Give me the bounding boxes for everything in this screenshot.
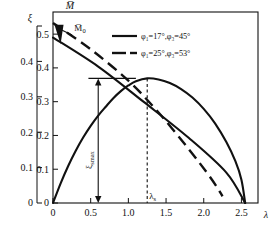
x-tick-label: 2.5 [235,207,248,218]
chart-legend: φ₁=17°,φ₃=45°φ₁=25°,φ₃=53° [112,32,190,58]
xi-smax-arrowhead-down [95,196,101,203]
x-tick-label: 1.5 [160,207,173,218]
main-axis-tick-labels: 00.10.20.30.40.5 [37,29,50,209]
xi-smax-label: ξsmax [84,150,95,168]
x-axis-title: λ [263,209,269,220]
main-axis-ticks [53,34,58,203]
x-tick-label: 0.5 [84,207,97,218]
legend-label: φ₁=25°,φ₃=53° [141,49,190,58]
series-m-dashed [53,23,223,196]
left-tick-label: 0.4 [21,56,34,67]
main-tick-label: 0.1 [37,164,50,175]
left-tick-label: 0.1 [21,162,34,173]
chart-canvas: 00.10.20.30.4 ξ 00.10.20.30.40.5 M̅ 00.5… [0,0,274,243]
lambda-s-label: λs [149,191,156,202]
x-tick-label: 2.0 [197,207,210,218]
left-axis-tick-labels: 00.10.20.30.4 [21,56,34,209]
main-tick-label: 0.5 [37,29,50,40]
legend-item: φ₁=17°,φ₃=45° [112,32,190,41]
left-tick-label: 0.2 [21,127,34,138]
x-tick-label: 0 [51,207,56,218]
main-tick-label: 0.2 [37,130,50,141]
x-tick-label: 1.0 [122,207,135,218]
xi-smax-arrowhead-up [95,78,101,85]
left-axis-title: ξ [28,12,33,24]
main-tick-label: 0.4 [37,62,50,73]
main-tick-label: 0 [44,197,49,208]
top-axis-title: M̅ [65,0,75,11]
chart-figure: 00.10.20.30.4 ξ 00.10.20.30.40.5 M̅ 00.5… [0,0,274,243]
left-tick-label: 0 [28,197,33,208]
x-axis-tick-labels: 00.51.01.52.02.5 [51,207,248,218]
series-m-solid [53,38,245,203]
left-tick-label: 0.3 [21,91,34,102]
m0-label: M̅0 [74,23,85,34]
main-tick-label: 0.3 [37,96,50,107]
legend-item: φ₁=25°,φ₃=53° [112,49,190,58]
left-axis-ticks [37,26,42,203]
legend-label: φ₁=17°,φ₃=45° [141,32,190,41]
